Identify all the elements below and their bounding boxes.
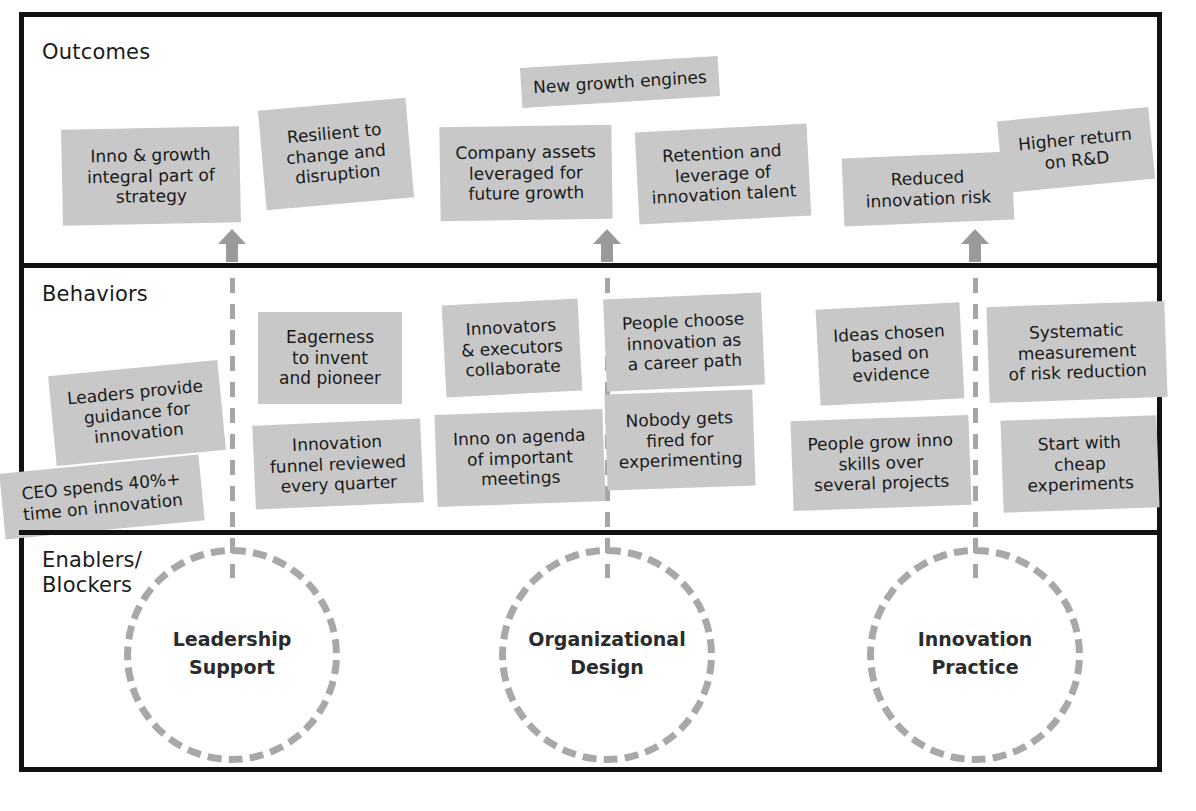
band-label-enablers: Enablers/ Blockers xyxy=(42,548,142,598)
card-behaviors-inno-on-agenda-of-important-meetings: Inno on agenda of important meetings xyxy=(434,409,605,507)
enabler-label-innovation-practice: Innovation Practice xyxy=(867,626,1083,681)
card-outcomes-resilient-to-change-and-disruption: Resilient to change and disruption xyxy=(258,98,414,211)
card-behaviors-leaders-provide-guidance-for-innovation: Leaders provide guidance for innovation xyxy=(48,360,226,466)
card-behaviors-ideas-chosen-based-on-evidence: Ideas chosen based on evidence xyxy=(816,302,965,405)
card-behaviors-innovation-funnel-reviewed-every-quarter: Innovation funnel reviewed every quarter xyxy=(252,418,424,509)
card-outcomes-retention-and-leverage-of-innovation-tal: Retention and leverage of innovation tal… xyxy=(635,124,812,225)
card-outcomes-inno-growth-integral-part-of-strategy: Inno & growth integral part of strategy xyxy=(61,126,241,226)
enabler-label-leadership-support: Leadership Support xyxy=(124,626,340,681)
card-behaviors-start-with-cheap-experiments: Start with cheap experiments xyxy=(1000,415,1159,512)
divider-outcomes-behaviors xyxy=(19,263,1162,268)
divider-behaviors-enablers xyxy=(19,530,1162,535)
up-arrow-innovation xyxy=(960,228,990,262)
card-behaviors-people-choose-innovation-as-a-career-pat: People choose innovation as a career pat… xyxy=(603,293,765,392)
band-label-outcomes: Outcomes xyxy=(42,40,150,65)
card-outcomes-reduced-innovation-risk: Reduced innovation risk xyxy=(842,151,1015,226)
card-behaviors-people-grow-inno-skills-over-several-pro: People grow inno skills over several pro… xyxy=(790,415,971,511)
enabler-label-organizational-design: Organizational Design xyxy=(499,626,715,681)
up-arrow-organizational xyxy=(592,228,622,262)
band-label-behaviors: Behaviors xyxy=(42,282,148,307)
card-behaviors-innovators-executors-collaborate: Innovators & executors collaborate xyxy=(442,299,583,398)
up-arrow-leadership xyxy=(217,228,247,262)
card-behaviors-systematic-measurement-of-risk-reduction: Systematic measurement of risk reduction xyxy=(986,301,1167,403)
diagram-canvas: Outcomes Behaviors Enablers/ Blockers In… xyxy=(0,0,1196,811)
card-outcomes-company-assets-leveraged-for-future-grow: Company assets leveraged for future grow… xyxy=(439,125,612,221)
card-behaviors-nobody-gets-fired-for-experimenting: Nobody gets fired for experimenting xyxy=(604,389,755,490)
card-behaviors-eagerness-to-invent-and-pioneer: Eagerness to invent and pioneer xyxy=(258,312,402,404)
card-outcomes-higher-return-on-r-d: Higher return on R&D xyxy=(997,107,1155,193)
